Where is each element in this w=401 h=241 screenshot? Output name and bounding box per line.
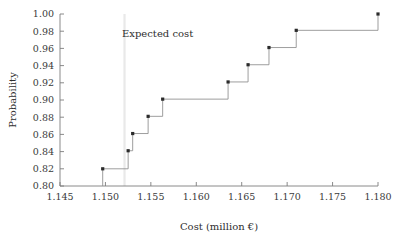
y-tick-label: 0.82 <box>33 163 54 174</box>
data-point-marker <box>147 115 150 118</box>
y-tick-label: 0.84 <box>33 146 54 157</box>
y-tick-label: 0.86 <box>33 129 54 140</box>
x-tick-label: 1.160 <box>183 191 210 202</box>
chart-canvas: 1.1451.1501.1551.1601.1651.1701.1751.180… <box>0 0 401 241</box>
data-point-marker <box>246 63 249 66</box>
x-axis-title: Cost (million €) <box>180 221 258 232</box>
x-tick-label: 1.145 <box>46 191 73 202</box>
data-point-marker <box>101 167 104 170</box>
x-tick-label: 1.170 <box>274 191 301 202</box>
y-tick-label: 0.88 <box>33 112 54 123</box>
y-tick-label: 0.92 <box>33 77 54 88</box>
expected-cost-label: Expected cost <box>122 28 193 39</box>
chart-figure: 1.1451.1501.1551.1601.1651.1701.1751.180… <box>0 0 401 241</box>
data-point-marker <box>131 132 134 135</box>
y-tick-label: 0.96 <box>33 43 54 54</box>
y-tick-label: 0.80 <box>33 180 54 191</box>
data-point-marker <box>267 46 270 49</box>
y-tick-label: 1.00 <box>33 8 54 19</box>
y-axis-title: Probability <box>7 72 18 128</box>
x-tick-label: 1.165 <box>228 191 255 202</box>
data-point-marker <box>127 149 130 152</box>
data-point-marker <box>295 29 298 32</box>
x-tick-label: 1.150 <box>92 191 119 202</box>
x-tick-label: 1.180 <box>364 191 391 202</box>
y-tick-label: 0.98 <box>33 26 54 37</box>
y-tick-label: 0.94 <box>33 60 54 71</box>
data-point-marker <box>226 80 229 83</box>
x-tick-label: 1.155 <box>137 191 164 202</box>
data-point-marker <box>376 12 379 15</box>
data-point-marker <box>161 98 164 101</box>
x-tick-label: 1.175 <box>319 191 346 202</box>
y-tick-label: 0.90 <box>33 94 54 105</box>
